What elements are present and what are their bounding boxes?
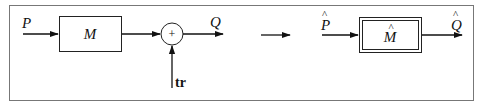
output-hat: ^ [453,8,459,20]
left-system: P M + Q tr [21,14,223,90]
block-m-label: M [83,26,98,42]
block-hat: ^ [388,21,394,33]
right-system: P ^ M ^ Q ^ [320,8,462,53]
output-label-q: Q [210,14,221,30]
plus-symbol: + [169,27,176,41]
input-label-p: P [21,15,31,31]
block-diagram: P M + Q tr P ^ M ^ Q ^ [0,0,484,104]
disturbance-label-tr: tr [175,75,186,90]
input-hat: ^ [322,8,328,20]
